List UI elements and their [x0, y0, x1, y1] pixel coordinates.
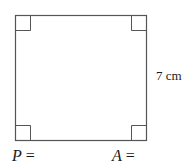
perimeter-variable: P [12, 147, 22, 164]
square [16, 16, 147, 141]
right-angle-marker-top-right [132, 16, 147, 31]
area-variable: A [112, 147, 122, 164]
right-angle-marker-bottom-right [132, 126, 147, 141]
perimeter-label: P = [12, 147, 35, 165]
right-angle-marker-top-left [16, 16, 31, 31]
square-diagram [0, 0, 193, 168]
area-label: A = [112, 147, 135, 165]
side-length-label: 7 cm [156, 68, 182, 84]
perimeter-equals: = [26, 147, 35, 164]
area-equals: = [126, 147, 135, 164]
right-angle-marker-bottom-left [16, 126, 31, 141]
